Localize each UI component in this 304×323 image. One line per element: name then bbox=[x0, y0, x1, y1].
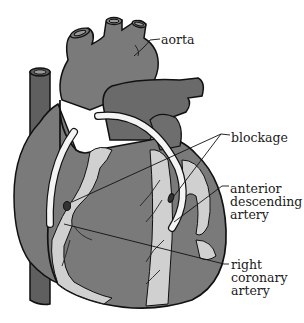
label-anterior-descending-artery: anterior descending artery bbox=[230, 182, 302, 221]
label-right-coronary-artery: right coronary artery bbox=[231, 258, 288, 297]
label-aorta: aorta bbox=[161, 33, 194, 46]
label-blockage: blockage bbox=[231, 131, 288, 144]
blockage-right bbox=[64, 202, 71, 211]
